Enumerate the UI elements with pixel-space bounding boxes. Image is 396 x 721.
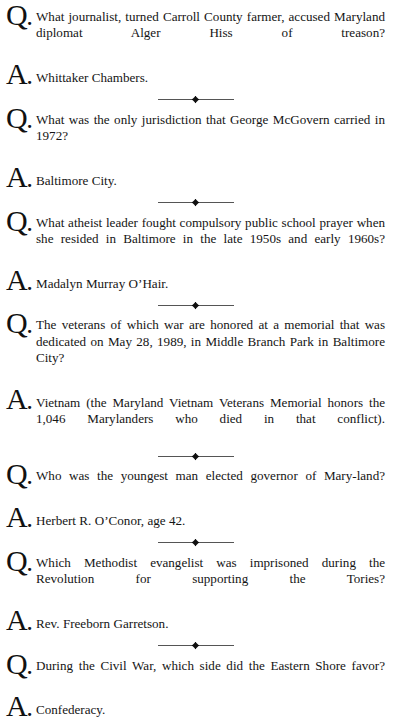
- question-marker: Q.: [6, 547, 36, 575]
- question-marker: Q.: [6, 309, 36, 337]
- answer-marker: A.: [6, 606, 36, 634]
- question-text: What atheist leader fought compulsory pu…: [36, 212, 385, 264]
- diamond-divider: [6, 535, 385, 551]
- divider-rule: [158, 542, 234, 543]
- question-block: Q. What atheist leader fought compulsory…: [6, 212, 385, 264]
- question-block: Q. Which Methodist evangelist was impris…: [6, 552, 385, 604]
- diamond-icon: [192, 302, 199, 309]
- answer-block: A. Herbert R. O’Conor, age 42.: [6, 508, 385, 531]
- divider-rule: [158, 99, 234, 100]
- diamond-icon: [192, 96, 199, 103]
- answer-text: Herbert R. O’Conor, age 42.: [36, 508, 385, 529]
- answer-text: Baltimore City.: [36, 168, 385, 189]
- answer-text: Madalyn Murray O’Hair.: [36, 271, 385, 292]
- question-block: Q. The veterans of which war are honored…: [6, 314, 385, 383]
- diamond-divider: [6, 638, 385, 654]
- answer-block: A. Baltimore City.: [6, 168, 385, 191]
- answer-block: A. Vietnam (the Maryland Vietnam Veteran…: [6, 390, 385, 444]
- answer-block: A. Confederacy.: [6, 697, 385, 720]
- question-marker: Q.: [6, 1, 36, 29]
- answer-block: A. Rev. Freeborn Garretson.: [6, 611, 385, 634]
- answer-marker: A.: [6, 163, 36, 191]
- question-text: During the Civil War, which side did the…: [36, 655, 385, 691]
- divider-rule: [158, 645, 234, 646]
- question-marker: Q.: [6, 104, 36, 132]
- diamond-divider: [6, 448, 385, 464]
- answer-marker: A.: [6, 692, 36, 720]
- question-marker: Q.: [6, 650, 36, 678]
- diamond-icon: [192, 539, 199, 546]
- diamond-divider: [6, 195, 385, 211]
- answer-marker: A.: [6, 503, 36, 531]
- question-text: Who was the youngest man elected governo…: [36, 465, 385, 501]
- question-block: Q. Who was the youngest man elected gove…: [6, 465, 385, 501]
- divider-rule: [158, 202, 234, 203]
- diamond-icon: [192, 642, 199, 649]
- answer-marker: A.: [6, 385, 36, 413]
- question-block: Q. During the Civil War, which side did …: [6, 655, 385, 691]
- diamond-icon: [192, 199, 199, 206]
- diamond-divider: [6, 297, 385, 313]
- question-text: What journalist, turned Carroll County f…: [36, 6, 385, 58]
- answer-text: Confederacy.: [36, 697, 385, 718]
- answer-marker: A.: [6, 60, 36, 88]
- question-marker: Q.: [6, 207, 36, 235]
- question-block: Q. What was the only jurisdiction that G…: [6, 109, 385, 161]
- qa-list: Q. What journalist, turned Carroll Count…: [0, 0, 396, 720]
- question-text: Which Methodist evangelist was imprisone…: [36, 552, 385, 604]
- answer-marker: A.: [6, 266, 36, 294]
- divider-rule: [158, 456, 234, 457]
- answer-text: Rev. Freeborn Garretson.: [36, 611, 385, 632]
- question-marker: Q.: [6, 460, 36, 488]
- diamond-icon: [192, 453, 199, 460]
- question-text: The veterans of which war are honored at…: [36, 314, 385, 383]
- answer-block: A. Madalyn Murray O’Hair.: [6, 271, 385, 294]
- answer-text: Whittaker Chambers.: [36, 65, 385, 86]
- diamond-divider: [6, 92, 385, 108]
- question-block: Q. What journalist, turned Carroll Count…: [6, 6, 385, 58]
- answer-text: Vietnam (the Maryland Vietnam Veterans M…: [36, 390, 385, 444]
- divider-rule: [158, 305, 234, 306]
- answer-block: A. Whittaker Chambers.: [6, 65, 385, 88]
- question-text: What was the only jurisdiction that Geor…: [36, 109, 385, 161]
